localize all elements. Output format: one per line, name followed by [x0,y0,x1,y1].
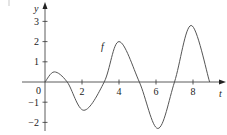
y-tick-label: −2 [28,117,39,128]
x-axis-arrow-icon [219,80,226,85]
y-tick-label: 2 [34,36,39,47]
function-graph: 2468 −2−1123 y t f 0 [0,0,227,135]
x-tick-label: 8 [191,86,196,97]
x-axis-label: t [219,88,222,99]
y-axis-arrow-icon [43,2,48,9]
y-axis-label: y [33,3,39,14]
x-tick-label: 6 [154,86,159,97]
origin-label: 0 [36,85,41,96]
x-axis [22,80,226,85]
curve-f [45,25,210,128]
y-tick-label: 3 [34,16,39,27]
y-tick-label: 1 [34,56,39,67]
y-tick-label: −1 [28,97,39,108]
x-tick-label: 4 [117,86,122,97]
curve-label-f: f [101,41,105,52]
x-tick-label: 2 [80,86,85,97]
